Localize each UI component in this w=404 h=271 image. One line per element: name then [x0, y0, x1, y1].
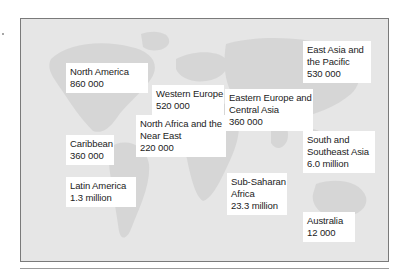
- world-map: North America 860 000 Western Europe 520…: [20, 18, 389, 262]
- region-value: 23.3 million: [231, 200, 282, 212]
- region-name: Australia: [307, 215, 350, 227]
- region-value: 12 000: [307, 227, 350, 239]
- region-label-south-southeast-asia: South and Southeast Asia 6.0 million: [303, 131, 375, 173]
- region-value: 6.0 million: [307, 158, 370, 170]
- region-name: the Pacific: [307, 56, 366, 68]
- region-label-latin-america: Latin America 1.3 million: [66, 177, 136, 207]
- region-name: Central Asia: [229, 104, 308, 116]
- region-name: South and: [307, 134, 370, 146]
- region-name: Sub-Saharan: [231, 176, 282, 188]
- margin-marker: [2, 33, 4, 35]
- region-value: 520 000: [156, 100, 219, 112]
- region-value: 860 000: [70, 78, 143, 90]
- region-value: 220 000: [140, 142, 221, 154]
- region-label-north-america: North America 860 000: [66, 63, 148, 93]
- region-name: Eastern Europe and: [229, 92, 308, 104]
- horizontal-divider: [20, 268, 389, 269]
- region-label-western-europe: Western Europe 520 000: [152, 85, 224, 115]
- region-label-sub-saharan-africa: Sub-Saharan Africa 23.3 million: [227, 173, 287, 215]
- region-label-east-asia-pacific: East Asia and the Pacific 530 000: [303, 41, 371, 83]
- region-label-eastern-europe-central-asia: Eastern Europe and Central Asia 360 000: [225, 89, 313, 131]
- region-name: East Asia and: [307, 44, 366, 56]
- region-label-australia: Australia 12 000: [303, 212, 355, 242]
- region-label-caribbean: Caribbean 360 000: [66, 135, 114, 165]
- region-name: North Africa and the: [140, 118, 221, 130]
- region-value: 360 000: [70, 150, 109, 162]
- region-name: North America: [70, 66, 143, 78]
- region-name: Caribbean: [70, 138, 109, 150]
- region-label-north-africa-near-east: North Africa and the Near East 220 000: [136, 115, 226, 157]
- region-name: Africa: [231, 188, 282, 200]
- region-name: Western Europe: [156, 88, 219, 100]
- region-name: Southeast Asia: [307, 146, 370, 158]
- region-value: 1.3 million: [70, 192, 131, 204]
- region-name: Near East: [140, 130, 221, 142]
- region-name: Latin America: [70, 180, 131, 192]
- region-value: 360 000: [229, 116, 308, 128]
- region-value: 530 000: [307, 68, 366, 80]
